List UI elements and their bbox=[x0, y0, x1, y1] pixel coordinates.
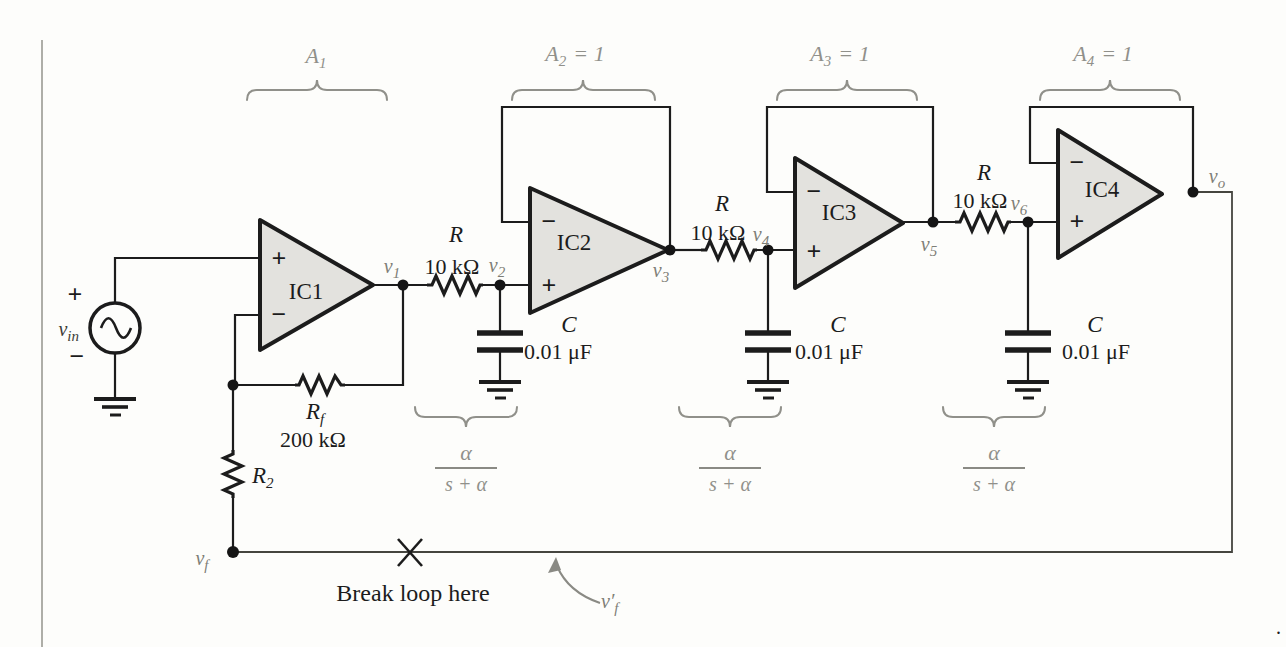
vf-prime-arrow bbox=[557, 566, 600, 603]
circuit-figure: + − vin bbox=[0, 0, 1286, 647]
brace-a1 bbox=[247, 80, 387, 100]
sine-wave-icon bbox=[101, 318, 131, 338]
break-loop-text: Break loop here bbox=[336, 580, 489, 606]
ground-cap3 bbox=[1007, 382, 1049, 398]
wire-rf-right-lead bbox=[345, 285, 403, 385]
tf2-denominator: s + α bbox=[709, 473, 751, 495]
ground-source bbox=[94, 399, 136, 415]
footnote-period: . bbox=[1276, 616, 1281, 638]
resistor-r2 bbox=[224, 450, 242, 498]
ic1-plus-input-sign: + bbox=[272, 244, 287, 273]
tf2-numerator: α bbox=[724, 440, 736, 465]
node-label-v3: v3 bbox=[653, 259, 669, 285]
wire-source-to-ic1-plus bbox=[115, 258, 260, 303]
node-dot-v6 bbox=[1023, 217, 1034, 228]
ground-cap1 bbox=[479, 382, 521, 398]
node-dot-v1 bbox=[398, 280, 409, 291]
node-label-v4: v4 bbox=[753, 223, 770, 249]
ic4-minus-input-sign: − bbox=[1070, 148, 1085, 177]
node-label-v5: v5 bbox=[921, 233, 938, 259]
brace-a2 bbox=[512, 80, 655, 100]
node-label-vf: vf bbox=[195, 547, 210, 573]
node-dot-vf bbox=[227, 546, 239, 558]
ic2-plus-input-sign: + bbox=[542, 271, 557, 300]
underbrace-tf3 bbox=[943, 407, 1045, 427]
wire-ic1-minus-input bbox=[235, 315, 260, 385]
ic1-minus-input-sign: − bbox=[272, 300, 287, 329]
circuit-schematic: + − vin bbox=[0, 0, 1286, 647]
source-label-vin: vin bbox=[58, 318, 79, 344]
node-dot-ic1-minus bbox=[228, 380, 239, 391]
gain-label-a4: A4= 1 bbox=[1071, 41, 1132, 69]
c-label-stage3: C bbox=[1087, 312, 1103, 337]
ic4-plus-input-sign: + bbox=[1070, 207, 1085, 236]
tf1-denominator: s + α bbox=[445, 473, 487, 495]
c-value-stage3: 0.01 μF bbox=[1062, 339, 1130, 364]
r2-label: R2 bbox=[251, 463, 274, 491]
brace-a4 bbox=[1040, 80, 1180, 100]
r-label-stage3: R bbox=[976, 160, 991, 185]
resistor-r-stage3 bbox=[955, 213, 1011, 231]
c-label-stage2: C bbox=[830, 312, 846, 337]
rf-value: 200 kΩ bbox=[280, 427, 346, 452]
ic3-label: IC3 bbox=[822, 200, 857, 225]
c-label-stage1: C bbox=[561, 312, 577, 337]
ic2-minus-input-sign: − bbox=[542, 207, 557, 236]
tf3-denominator: s + α bbox=[973, 473, 1015, 495]
node-dot-v3 bbox=[665, 245, 676, 256]
node-dot-vo bbox=[1188, 187, 1199, 198]
gain-annotations: A1 A2= 1 A3= 1 A4= 1 bbox=[247, 41, 1180, 100]
c-value-stage1: 0.01 μF bbox=[524, 339, 592, 364]
ic2-label: IC2 bbox=[557, 230, 592, 255]
r-value-stage2: 10 kΩ bbox=[691, 220, 746, 245]
capacitor-c-stage1 bbox=[477, 333, 523, 350]
rf-label: Rf bbox=[305, 399, 326, 427]
node-label-vo: vo bbox=[1209, 165, 1226, 191]
source-plus-sign: + bbox=[68, 280, 83, 309]
gain-label-a1: A1 bbox=[304, 43, 327, 71]
voltage-source: + − vin bbox=[58, 280, 140, 371]
ic4-label: IC4 bbox=[1085, 177, 1120, 202]
r-value-stage3: 10 kΩ bbox=[953, 188, 1008, 213]
ic1-label: IC1 bbox=[289, 279, 324, 304]
ic3-minus-input-sign: − bbox=[807, 177, 822, 206]
transfer-function-annotations: α s + α α s + α α s + α bbox=[415, 407, 1045, 495]
node-label-v6: v6 bbox=[1011, 192, 1028, 218]
capacitor-c-stage2 bbox=[745, 333, 791, 350]
resistor-rf bbox=[295, 376, 345, 394]
r-label-stage1: R bbox=[448, 222, 463, 247]
source-minus-sign: − bbox=[70, 342, 85, 371]
r-label-stage2: R bbox=[714, 191, 729, 216]
node-label-v1: v1 bbox=[384, 255, 400, 281]
ground-cap2 bbox=[747, 382, 789, 398]
ic3-plus-input-sign: + bbox=[807, 237, 822, 266]
node-dot-v5 bbox=[928, 217, 939, 228]
wire-output-feedback-return bbox=[233, 192, 1232, 552]
gain-label-a3: A3= 1 bbox=[808, 41, 869, 69]
break-loop-annotation: Break loop here bbox=[336, 539, 600, 606]
node-label-v2: v2 bbox=[489, 254, 506, 280]
node-dot-v2 bbox=[495, 280, 506, 291]
underbrace-tf1 bbox=[415, 407, 517, 427]
gain-label-a2: A2= 1 bbox=[543, 41, 604, 69]
c-value-stage2: 0.01 μF bbox=[795, 339, 863, 364]
r-value-stage1: 10 kΩ bbox=[425, 254, 480, 279]
capacitor-c-stage3 bbox=[1005, 333, 1051, 350]
node-label-vf-prime: v′f bbox=[601, 590, 620, 616]
underbrace-tf2 bbox=[679, 407, 781, 427]
tf3-numerator: α bbox=[988, 440, 1000, 465]
brace-a3 bbox=[777, 80, 917, 100]
tf1-numerator: α bbox=[460, 440, 472, 465]
